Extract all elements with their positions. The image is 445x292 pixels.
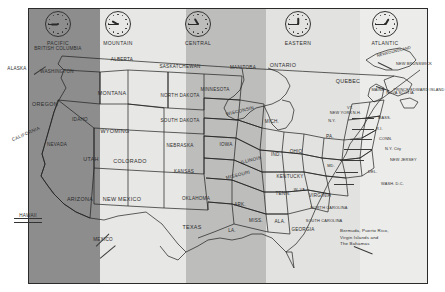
clock-tick	[392, 19, 393, 20]
clock-tick	[205, 28, 206, 29]
region-label-alberta: ALBERTA	[111, 57, 133, 62]
region-label-pa: PA.	[326, 134, 334, 139]
region-label-saskatchewan: SASKATCHEWAN	[159, 64, 200, 69]
zone-label-mountain: MOUNTAIN	[103, 40, 133, 46]
clock-center-pin	[57, 23, 59, 25]
clock-tick	[117, 14, 118, 15]
region-label-miss: MISS.	[249, 218, 263, 223]
clock-tick	[384, 14, 385, 15]
region-label-montana: MONTANA	[98, 90, 127, 96]
region-label-idaho: IDAHO	[72, 117, 88, 122]
clock-tick	[307, 23, 308, 24]
clock-tick	[53, 31, 54, 32]
region-label-ark: ARK.	[234, 202, 246, 207]
region-label-la: LA.	[228, 228, 236, 233]
clock-tick	[62, 15, 63, 16]
hawaii-marker	[14, 218, 42, 223]
clock-tick	[189, 28, 190, 29]
clock-tick	[62, 31, 63, 32]
clock-tick	[189, 19, 190, 20]
clock-tick	[384, 33, 385, 34]
region-label-n-y: N.Y.	[328, 119, 336, 123]
clock-tick	[207, 23, 208, 24]
clock-tick	[125, 28, 126, 29]
region-label-n-h: N.H.	[353, 111, 361, 115]
clock-tick	[389, 31, 390, 32]
region-label-south-dakota: SOUTH DAKOTA	[161, 118, 200, 123]
clock-tick	[202, 31, 203, 32]
clock-tick	[109, 19, 110, 20]
region-label-utah: UTAH	[83, 156, 98, 162]
clock-tick	[392, 28, 393, 29]
clock-tick	[53, 15, 54, 16]
clock-tick	[297, 33, 298, 34]
region-label-ontario: ONTARIO	[270, 62, 296, 68]
region-label-ind: IND.	[271, 152, 281, 157]
region-label-wyoming: WYOMING	[100, 128, 129, 134]
clock-tick	[117, 33, 118, 34]
zone-label-central: CENTRAL	[185, 40, 211, 46]
clock-tick	[109, 28, 110, 29]
region-label-quebec: QUEBEC	[336, 78, 361, 84]
clock-tick	[302, 15, 303, 16]
callout-label-new-jersey: NEW JERSEY	[390, 158, 417, 162]
clock-tick	[376, 19, 377, 20]
clock-central	[185, 11, 211, 37]
clock-pacific	[45, 11, 71, 37]
clock-tick	[380, 31, 381, 32]
zone-label-atlantic: ATLANTIC	[372, 40, 399, 46]
clock-center-pin	[384, 23, 386, 25]
region-label-north-dakota: NORTH DAKOTA	[160, 93, 199, 98]
clock-tick	[65, 28, 66, 29]
region-label-new-mexico: NEW MEXICO	[103, 196, 141, 202]
region-label-w-va: W. VA.	[294, 188, 307, 192]
clock-tick	[122, 15, 123, 16]
note-line-2: Virgin Islands and	[340, 235, 389, 242]
clock-tick	[197, 33, 198, 34]
territories-note: Bermuda, Puerto Rico, Virgin Islands and…	[340, 228, 389, 248]
region-label-new-brunswick: NEW BRUNSWICK	[396, 62, 432, 66]
callout-label-n-y-city: N.Y. City	[385, 147, 401, 151]
region-label-virginia: VIRGINIA	[309, 193, 331, 198]
clock-atlantic	[372, 11, 398, 37]
region-label-manitoba: MANITOBA	[230, 65, 256, 70]
clock-tick	[289, 19, 290, 20]
clock-tick	[57, 14, 58, 15]
zone-label-eastern: EASTERN	[285, 40, 311, 46]
callout-label-r-i: R.I.	[376, 127, 383, 131]
region-label-oregon: OREGON	[32, 101, 58, 107]
region-label-nevada: NEVADA	[47, 142, 67, 147]
clock-tick	[49, 19, 50, 20]
clock-tick	[193, 31, 194, 32]
region-label-tenn: TENN.	[275, 191, 290, 196]
region-label-georgia: GEORGIA	[291, 227, 314, 232]
region-label-north-carolina: NORTH CAROLINA	[311, 206, 348, 210]
clock-tick	[302, 31, 303, 32]
region-label-texas: TEXAS	[182, 224, 201, 230]
zone-label-pacific: PACIFIC	[47, 40, 69, 46]
clock-center-pin	[297, 23, 299, 25]
clock-tick	[113, 15, 114, 16]
clock-tick	[289, 28, 290, 29]
callout-label-wash-d-c: WASH. D.C.	[381, 182, 404, 186]
clock-tick	[293, 15, 294, 16]
clock-center-pin	[117, 23, 119, 25]
clock-tick	[376, 28, 377, 29]
note-line-3: The Bahamas	[340, 241, 389, 248]
callout-label-conn: CONN.	[379, 137, 392, 141]
region-label-mexico: MEXICO	[93, 237, 113, 242]
region-label-colorado: COLORADO	[113, 158, 146, 164]
clock-tick	[197, 14, 198, 15]
clock-tick	[127, 23, 128, 24]
region-label-alaska: ALASKA	[7, 66, 26, 71]
note-line-1: Bermuda, Puerto Rico,	[340, 228, 389, 235]
clock-tick	[389, 15, 390, 16]
region-label-nebraska: NEBRASKA	[166, 143, 193, 148]
clock-tick	[380, 15, 381, 16]
clock-tick	[305, 19, 306, 20]
region-label-maine: MAINE	[371, 88, 384, 92]
region-label-md: MD.	[327, 164, 335, 168]
clock-tick	[113, 31, 114, 32]
region-label-new-york: NEW YORK	[330, 111, 352, 115]
